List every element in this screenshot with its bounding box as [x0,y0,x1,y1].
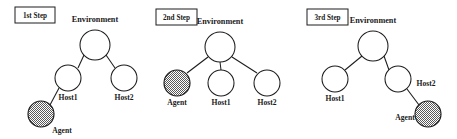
label-agent: Agent [52,126,72,135]
label-agent: Agent [167,98,187,107]
node-environment [205,32,235,62]
node-host2 [385,66,411,92]
edge-environment-host1 [78,55,84,68]
step-label: 2nd Step [163,14,190,22]
edge-environment-host2 [384,56,389,70]
label-environment: Environment [197,17,244,26]
edge-environment-host1 [345,56,362,70]
edge-environment-host1 [220,62,221,70]
node-environment [80,30,110,60]
label-host1: Host1 [59,93,78,102]
node-host2 [254,70,280,96]
node-host1 [322,66,348,92]
node-agent [28,101,54,127]
node-agent [164,70,190,96]
edge-host2-agent [407,89,419,105]
panel-2nd-step: 2nd Step Environment Agent Host1 Host2 [152,0,302,139]
label-agent: Agent [395,113,415,122]
node-host1 [55,65,81,91]
label-environment: Environment [72,15,119,24]
panel-3-canvas: 3rd Step Environment Host1 Host2 Agent [302,0,457,139]
label-host1: Host1 [326,94,345,103]
node-host1 [208,70,234,96]
edge-environment-host2 [232,57,257,73]
edge-environment-agent [187,57,208,73]
node-environment [358,31,388,61]
label-host1: Host1 [212,98,231,107]
edge-environment-host2 [106,55,115,68]
label-host2: Host2 [258,98,277,107]
label-host2: Host2 [115,93,134,102]
panel-1-canvas: 1st Step Environment Host1 Host2 Agent [0,0,152,139]
panel-1st-step: 1st Step Environment Host1 Host2 Agent [0,0,152,139]
step-label: 1st Step [23,12,47,20]
panel-3rd-step: 3rd Step Environment Host1 Host2 Agent [302,0,457,139]
step-label: 3rd Step [314,14,340,22]
label-environment: Environment [350,16,397,25]
agent-migration-figure: 1st Step Environment Host1 Host2 Agent [0,0,457,139]
node-agent [415,101,441,127]
panel-2-canvas: 2nd Step Environment Agent Host1 Host2 [152,0,302,139]
label-host2: Host2 [417,79,436,88]
node-host2 [111,65,137,91]
